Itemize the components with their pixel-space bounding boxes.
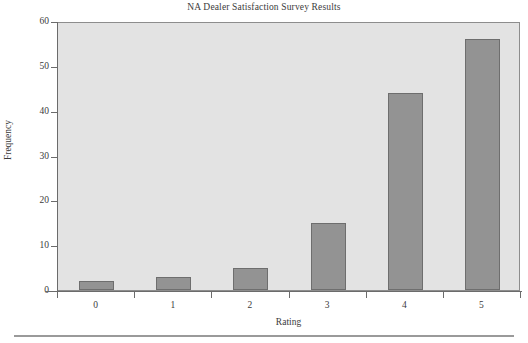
y-axis-tick bbox=[51, 67, 57, 68]
y-axis-tick-label: 30 bbox=[21, 152, 49, 162]
x-axis-tick bbox=[520, 292, 521, 298]
y-axis-tick-label: 50 bbox=[21, 62, 49, 72]
y-axis-tick bbox=[51, 201, 57, 202]
y-axis-tick bbox=[51, 157, 57, 158]
bar bbox=[465, 39, 500, 290]
footer-divider bbox=[14, 335, 514, 337]
y-axis-tick-label: 60 bbox=[21, 17, 49, 27]
x-axis-tick bbox=[289, 292, 290, 298]
x-axis-tick-label: 3 bbox=[307, 301, 347, 311]
x-axis-tick-label: 1 bbox=[153, 301, 193, 311]
x-axis-tick bbox=[443, 292, 444, 298]
x-axis-tick-label: 4 bbox=[384, 301, 424, 311]
bar bbox=[388, 93, 423, 290]
y-axis-tick-label: 40 bbox=[21, 107, 49, 117]
bars-layer bbox=[58, 23, 519, 290]
plot-area bbox=[57, 22, 520, 291]
chart-title: NA Dealer Satisfaction Survey Results bbox=[0, 2, 528, 12]
x-axis-tick bbox=[57, 292, 58, 298]
bar bbox=[311, 223, 346, 290]
y-axis-tick-label: 20 bbox=[21, 196, 49, 206]
x-axis-tick-label: 0 bbox=[76, 301, 116, 311]
y-axis-line bbox=[57, 22, 58, 292]
x-axis-title: Rating bbox=[57, 317, 520, 327]
y-axis-tick bbox=[51, 22, 57, 23]
bar-chart: NA Dealer Satisfaction Survey Results 01… bbox=[0, 0, 528, 343]
bar bbox=[233, 268, 268, 290]
bar bbox=[79, 281, 114, 290]
x-axis-tick bbox=[366, 292, 367, 298]
x-axis-tick bbox=[211, 292, 212, 298]
x-axis-line bbox=[45, 291, 522, 292]
y-axis-tick bbox=[51, 112, 57, 113]
x-axis-tick bbox=[134, 292, 135, 298]
y-axis-title: Frequency bbox=[3, 95, 13, 185]
x-axis-tick-label: 5 bbox=[461, 301, 501, 311]
x-axis-tick-label: 2 bbox=[230, 301, 270, 311]
y-axis-tick-label: 10 bbox=[21, 241, 49, 251]
y-axis-tick bbox=[51, 246, 57, 247]
bar bbox=[156, 277, 191, 290]
